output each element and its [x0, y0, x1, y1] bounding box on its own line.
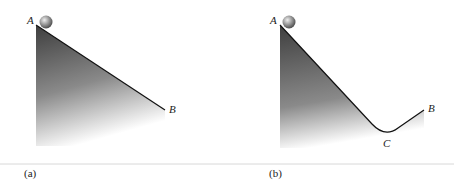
point-b-label: B: [428, 102, 435, 114]
panel-a: A B (a): [24, 14, 176, 180]
ball-b: [283, 16, 296, 29]
ramp-a: [36, 25, 165, 146]
caption-a: (a): [24, 167, 37, 180]
ball-a: [40, 16, 53, 29]
point-a-label: A: [269, 14, 277, 26]
point-b-label: B: [169, 103, 176, 115]
ramp-b: [280, 25, 424, 148]
point-c-label: C: [383, 137, 391, 149]
panel-b: A B C (b): [269, 14, 435, 180]
caption-b: (b): [269, 167, 282, 180]
ramp-diagram: A B (a) A B C (b): [0, 0, 454, 187]
point-a-label: A: [26, 14, 34, 26]
